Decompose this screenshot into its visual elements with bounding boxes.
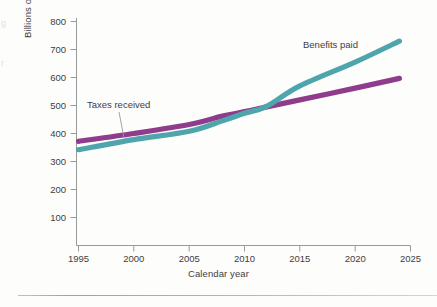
y-tick-label-500: 500: [50, 100, 66, 111]
x-tick-label-2000: 2000: [123, 253, 144, 264]
x-axis-ticks: [79, 246, 411, 252]
y-axis-ticks: [71, 22, 77, 218]
y-axis-tick-labels: 800 700 600 500 400 300 200 100: [50, 16, 66, 223]
y-tick-label-400: 400: [50, 128, 66, 139]
x-tick-label-2005: 2005: [179, 253, 200, 264]
data-series-layer: [79, 41, 400, 150]
taxes-received-label: Taxes received: [87, 99, 150, 110]
x-tick-label-2015: 2015: [289, 253, 310, 264]
y-tick-label-600: 600: [50, 72, 66, 83]
y-tick-label-800: 800: [50, 16, 66, 27]
y-tick-label-700: 700: [50, 44, 66, 55]
page-footer-rule: [18, 295, 437, 296]
benefits-paid-label: Benefits paid: [303, 39, 358, 50]
line-chart-figure: 800 700 600 500 400 300 200 100 1995 200…: [0, 0, 437, 290]
x-tick-label-1995: 1995: [68, 253, 89, 264]
y-tick-label-200: 200: [50, 184, 66, 195]
chart-plot-area: 800 700 600 500 400 300 200 100 1995 200…: [0, 0, 437, 290]
x-axis-tick-labels: 1995 2000 2005 2010 2015 2020 2025: [68, 253, 421, 264]
y-tick-label-100: 100: [50, 212, 66, 223]
x-tick-label-2020: 2020: [345, 253, 366, 264]
x-tick-label-2025: 2025: [400, 253, 421, 264]
y-axis-title: Billions of constant dollars: [22, 0, 36, 38]
y-tick-label-300: 300: [50, 156, 66, 167]
x-axis-title: Calendar year: [0, 268, 437, 279]
x-tick-label-2010: 2010: [234, 253, 255, 264]
